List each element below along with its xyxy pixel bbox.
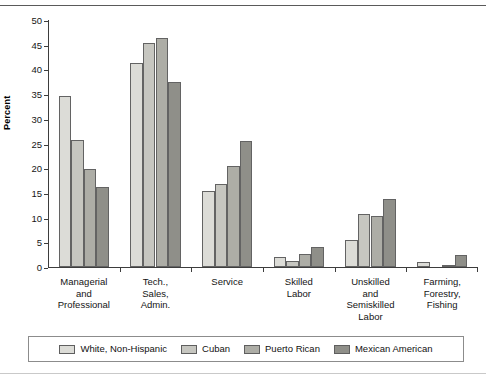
x-axis-group-label-line: Labor (263, 288, 335, 300)
bar (130, 63, 143, 267)
bar (227, 166, 240, 267)
legend-label: Puerto Rican (265, 344, 320, 354)
bar (59, 96, 72, 267)
bar (383, 199, 396, 267)
bar (455, 255, 468, 267)
y-tick-label: 0 (37, 263, 42, 273)
legend-item: Cuban (181, 344, 230, 354)
legend: White, Non-HispanicCubanPuerto RicanMexi… (28, 336, 464, 362)
y-tick-mark (44, 268, 48, 269)
bar (71, 140, 84, 267)
x-axis-group-label-line: Sales, (120, 288, 192, 300)
x-tick-mark (263, 268, 264, 272)
legend-swatch (181, 345, 197, 354)
bar (84, 169, 97, 267)
axes (48, 20, 478, 268)
chart-figure: Percent 05101520253035404550 Manageriala… (0, 0, 486, 377)
x-axis-group-label: Service (191, 276, 263, 288)
y-tick-label: 50 (31, 16, 42, 26)
top-divider (0, 5, 486, 6)
y-tick-label: 25 (31, 140, 42, 150)
legend-swatch (334, 345, 350, 354)
x-tick-mark (477, 268, 478, 272)
x-axis-group-label-line: Skilled (263, 276, 335, 288)
x-axis-group-label-line: Managerial (48, 276, 120, 288)
x-axis-group-label-line: Forestry, (406, 288, 478, 300)
bar (286, 261, 299, 267)
bar (202, 191, 215, 267)
y-tick-label: 15 (31, 189, 42, 199)
bottom-divider (0, 373, 486, 374)
y-tick-label: 45 (31, 41, 42, 51)
legend-label: Cuban (202, 344, 230, 354)
plot-area: Percent 05101520253035404550 Manageriala… (0, 12, 486, 282)
x-axis-group-label-line: Tech., (120, 276, 192, 288)
y-tick-label: 30 (31, 115, 42, 125)
x-axis-group-label: ManagerialandProfessional (48, 276, 120, 311)
x-tick-mark (191, 268, 192, 272)
bar (215, 184, 228, 267)
bar (358, 214, 371, 267)
legend-item: White, Non-Hispanic (59, 344, 167, 354)
bars-layer (48, 20, 478, 267)
legend-swatch (244, 345, 260, 354)
x-axis-group-label-line: Fishing (406, 299, 478, 311)
y-tick-label: 40 (31, 66, 42, 76)
bar (442, 265, 455, 267)
x-axis-group-label-line: Farming, (406, 276, 478, 288)
y-tick-label: 35 (31, 90, 42, 100)
y-tick-label: 20 (31, 164, 42, 174)
bar (143, 43, 156, 267)
x-tick-mark (335, 268, 336, 272)
y-tick-label: 10 (31, 214, 42, 224)
bar (274, 257, 287, 267)
x-axis-group-label-line: Labor (335, 311, 407, 323)
x-axis-group-label-line: Service (191, 276, 263, 288)
x-axis-group-label-line: and (335, 288, 407, 300)
legend-swatch (59, 345, 75, 354)
bar (299, 254, 312, 267)
legend-label: Mexican American (355, 344, 433, 354)
x-axis-group-label: Farming,Forestry,Fishing (406, 276, 478, 311)
y-axis-tick-labels: 05101520253035404550 (18, 12, 42, 272)
x-tick-mark (120, 268, 121, 272)
bar (311, 247, 324, 267)
x-axis-group-label-line: Professional (48, 299, 120, 311)
bar (371, 216, 384, 267)
x-axis-group-label-line: and (48, 288, 120, 300)
x-axis-group-label: Tech.,Sales,Admin. (120, 276, 192, 311)
legend-label: White, Non-Hispanic (80, 344, 167, 354)
x-tick-mark (406, 268, 407, 272)
bar (168, 82, 181, 267)
x-axis-group-label-line: Admin. (120, 299, 192, 311)
x-axis-group-label: UnskilledandSemiskilledLabor (335, 276, 407, 322)
bar (345, 240, 358, 267)
x-axis-group-label: SkilledLabor (263, 276, 335, 299)
legend-item: Puerto Rican (244, 344, 320, 354)
bar (156, 38, 169, 267)
y-axis-title: Percent (2, 96, 12, 130)
bar (417, 262, 430, 267)
x-axis-group-labels: ManagerialandProfessionalTech.,Sales,Adm… (48, 276, 478, 336)
bar (240, 141, 253, 267)
y-tick-label: 5 (37, 239, 42, 249)
x-axis-group-label-line: Unskilled (335, 276, 407, 288)
bar (96, 187, 109, 267)
x-axis-group-label-line: Semiskilled (335, 299, 407, 311)
legend-item: Mexican American (334, 344, 433, 354)
